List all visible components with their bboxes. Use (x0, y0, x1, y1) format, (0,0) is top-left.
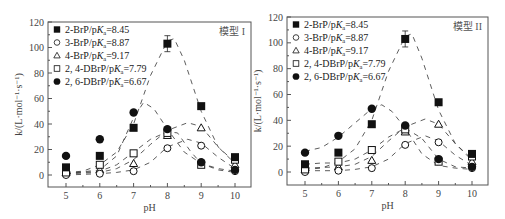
y-tick-label: 100 (29, 42, 44, 53)
y-axis-title: k/(L·mol⁻¹·s⁻¹) (13, 73, 25, 136)
data-point-filled-circle (468, 163, 476, 171)
legend-item: 2, 4-DBrP/pKa=7.79 (54, 63, 146, 75)
x-tick-label: 8 (165, 190, 170, 201)
legend-marker-open-triangle (293, 47, 299, 53)
legend-marker-open-circle (293, 35, 299, 41)
legend-marker-open-square (293, 61, 299, 67)
x-tick-label: 6 (97, 190, 102, 201)
y-axis-title: k/(L·mol⁻¹·s⁻¹) (252, 70, 264, 133)
legend-label: 2, 6-DBrP/pKa=6.67 (65, 76, 147, 88)
chart-panel-2: 0204060801001205678910pHk/(L·mol⁻¹·s⁻¹)模… (252, 12, 488, 212)
data-point-filled-circle (401, 121, 409, 129)
data-point-filled-square (130, 124, 138, 132)
x-axis-title: pH (381, 200, 393, 211)
legend-marker-open-circle (54, 40, 60, 46)
legend-label: 3-BrP/pKa=8.87 (65, 37, 129, 49)
x-tick-label: 10 (467, 188, 477, 199)
data-point-open-circle (164, 145, 171, 152)
data-point-open-square (335, 158, 342, 165)
x-axis-title: pH (143, 202, 155, 213)
legend-marker-open-square (54, 66, 60, 72)
data-point-filled-circle (62, 152, 70, 160)
data-point-open-triangle (435, 120, 443, 127)
data-point-open-triangle (368, 156, 376, 163)
fit-curve (305, 119, 472, 168)
legend-item: 3-BrP/pKa=8.87 (54, 37, 129, 49)
y-tick-label: 60 (273, 89, 283, 100)
data-point-open-triangle (130, 160, 138, 167)
data-point-open-circle (198, 142, 205, 149)
y-tick-label: 60 (34, 93, 44, 104)
data-point-filled-circle (301, 148, 309, 156)
data-point-filled-circle (231, 166, 239, 174)
data-point-filled-square (231, 153, 239, 161)
legend-marker-filled-circle (293, 73, 300, 80)
legend-label: 4-BrP/pKa=9.17 (304, 45, 368, 57)
data-point-open-square (368, 147, 375, 154)
y-tick-label: 40 (34, 119, 44, 130)
legend-item: 2, 6-DBrP/pKa=6.67 (293, 71, 386, 83)
data-point-filled-square (368, 120, 376, 128)
model-label: 模型 II (453, 20, 482, 32)
y-tick-label: 40 (273, 115, 283, 126)
y-tick-label: 0 (39, 170, 44, 181)
legend-label: 2, 6-DBrP/pKa=6.67 (304, 71, 386, 83)
data-point-filled-square (96, 152, 104, 160)
data-point-filled-square (301, 160, 309, 168)
legend-label: 2-BrP/pKa=8.45 (65, 24, 129, 36)
x-tick-label: 6 (336, 188, 341, 199)
data-point-filled-square (435, 98, 443, 106)
legend-item: 2, 4-DBrP/pKa=7.79 (293, 58, 385, 70)
legend-marker-filled-circle (54, 78, 61, 85)
data-point-filled-square (468, 150, 476, 158)
legend-item: 4-BrP/pKa=9.17 (293, 45, 369, 57)
legend-marker-filled-square (293, 21, 299, 27)
data-point-open-circle (96, 170, 103, 177)
legend-label: 4-BrP/pKa=9.17 (65, 50, 129, 62)
data-point-open-circle (435, 139, 442, 146)
data-point-open-circle (335, 167, 342, 174)
fit-curve (66, 102, 235, 173)
y-tick-label: 80 (34, 68, 44, 79)
y-tick-label: 100 (268, 37, 283, 48)
data-point-open-triangle (197, 124, 205, 131)
x-tick-label: 9 (436, 188, 441, 199)
data-point-open-circle (368, 165, 375, 172)
fit-curve (66, 132, 235, 174)
data-point-filled-square (197, 102, 205, 110)
data-point-open-circle (130, 168, 137, 175)
y-tick-label: 20 (34, 144, 44, 155)
x-tick-label: 5 (303, 188, 308, 199)
legend-label: 2, 4-DBrP/pKa=7.79 (65, 63, 147, 75)
legend-item: 2, 6-DBrP/pKa=6.67 (54, 76, 147, 88)
data-point-filled-square (62, 163, 70, 171)
legend-marker-filled-square (54, 26, 60, 32)
y-tick-label: 20 (273, 141, 283, 152)
data-point-filled-circle (434, 155, 442, 163)
x-tick-label: 7 (131, 190, 136, 201)
legend-label: 2, 4-DBrP/pKa=7.79 (304, 58, 386, 70)
data-point-filled-circle (163, 125, 171, 133)
legend-item: 2-BrP/pKa=8.45 (293, 19, 369, 31)
data-point-filled-circle (334, 132, 342, 140)
legend-item: 2-BrP/pKa=8.45 (54, 24, 130, 36)
data-point-open-square (96, 161, 103, 168)
x-tick-label: 8 (403, 188, 408, 199)
data-point-filled-circle (96, 135, 104, 143)
data-point-open-circle (402, 141, 409, 148)
data-point-filled-circle (197, 158, 205, 166)
x-tick-label: 10 (230, 190, 240, 201)
data-point-filled-square (401, 35, 409, 43)
model-label: 模型 I (219, 25, 245, 37)
data-point-filled-circle (368, 105, 376, 113)
y-tick-label: 0 (278, 167, 283, 178)
x-tick-label: 7 (369, 188, 374, 199)
y-tick-label: 120 (268, 12, 283, 23)
legend-marker-open-triangle (54, 52, 60, 58)
x-tick-label: 5 (64, 190, 69, 201)
y-tick-label: 80 (273, 63, 283, 74)
legend-item: 4-BrP/pKa=9.17 (54, 50, 130, 62)
data-point-open-square (130, 150, 137, 157)
legend-label: 2-BrP/pKa=8.45 (304, 19, 368, 31)
legend-item: 3-BrP/pKa=8.87 (293, 32, 368, 44)
